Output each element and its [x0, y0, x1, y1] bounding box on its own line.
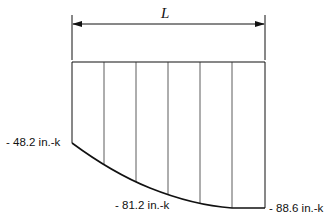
- span-label: L: [161, 5, 169, 22]
- right-moment-label: - 88.6 in.-k: [269, 202, 323, 214]
- moment-diagram: [0, 0, 332, 222]
- left-moment-label: - 48.2 in.-k: [6, 136, 60, 148]
- mid-moment-label: - 81.2 in.-k: [115, 199, 169, 211]
